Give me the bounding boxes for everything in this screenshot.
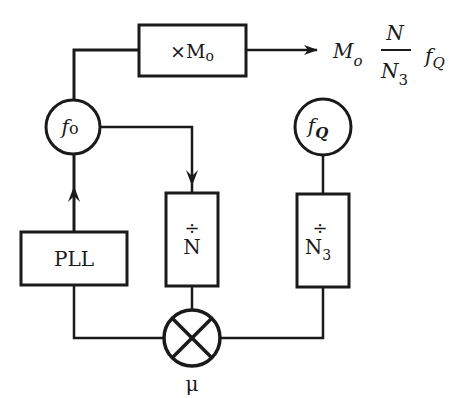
- divider-n3-sub: 3: [322, 247, 331, 263]
- mixer-label: μ: [186, 372, 199, 396]
- divider-n3-block: ÷ N3: [297, 194, 349, 287]
- multiplier-prefix: ×: [170, 40, 186, 62]
- svg-text:×Mo: ×Mo: [170, 40, 214, 64]
- multiplier-block: ×Mo: [139, 25, 246, 76]
- mixer-to-pll-line: [74, 285, 164, 338]
- svg-text:fQ: fQ: [306, 114, 328, 142]
- divider-n-block: ÷ N: [166, 193, 218, 286]
- divider-n3-label: N: [305, 235, 323, 259]
- pll-block: PLL: [21, 232, 127, 285]
- output-m: M: [332, 39, 354, 63]
- divider-n3-to-mixer-line: [220, 287, 323, 338]
- divider-n-label: N: [183, 235, 201, 259]
- fq-sub: Q: [315, 124, 328, 142]
- output-expression: Mo N N3 fQ: [332, 21, 445, 89]
- pll-label: PLL: [54, 247, 94, 271]
- output-frac-den: N: [380, 59, 400, 83]
- fq-node: fQ: [295, 99, 351, 155]
- svg-text:fQ: fQ: [423, 44, 445, 72]
- f0-sub: o: [69, 119, 79, 138]
- svg-text:N3: N3: [305, 235, 331, 263]
- svg-text:fo: fo: [59, 115, 78, 139]
- block-diagram: ×Mo Mo N N3 fQ fo fQ: [0, 0, 464, 398]
- f0-to-multiplier-line: [74, 50, 139, 100]
- output-m-sub: o: [353, 52, 362, 70]
- mixer-icon: [164, 310, 220, 366]
- svg-text:Mo: Mo: [332, 39, 363, 70]
- f0-to-divider-line: [100, 127, 192, 192]
- multiplier-sub: o: [205, 48, 213, 64]
- output-frac-num: N: [385, 21, 405, 45]
- svg-text:N3: N3: [380, 59, 408, 89]
- multiplier-label: M: [186, 40, 205, 62]
- output-frac-den-sub: 3: [399, 71, 409, 89]
- f0-node: fo: [46, 100, 100, 154]
- output-f-sub: Q: [432, 54, 444, 72]
